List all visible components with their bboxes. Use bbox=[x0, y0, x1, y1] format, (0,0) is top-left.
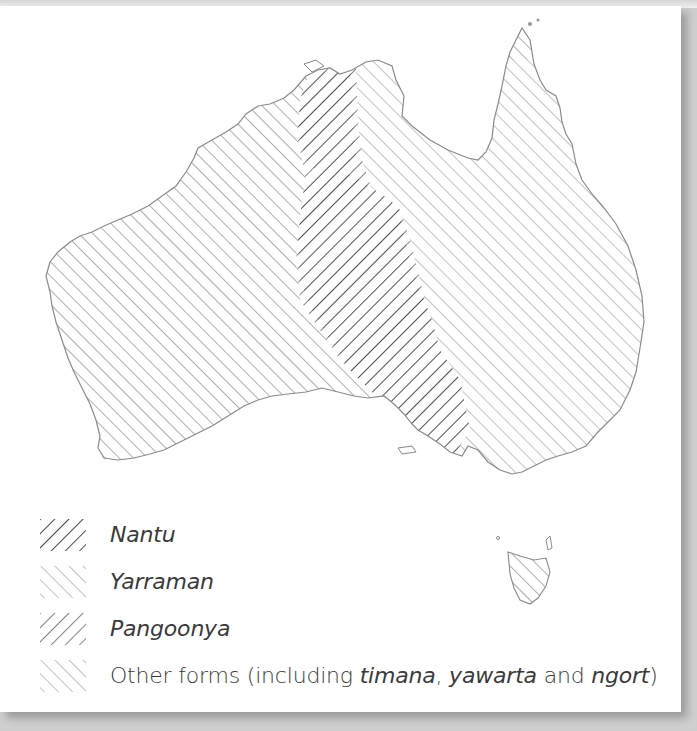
other-hatch-icon bbox=[40, 660, 86, 692]
legend-term: ngort bbox=[591, 663, 649, 688]
legend-item-other: Other forms (including timana, yawarta a… bbox=[40, 652, 658, 699]
map-card: Nantu Yarraman Pangoonya Other forms (in… bbox=[0, 6, 681, 712]
legend-text: , bbox=[436, 663, 450, 688]
legend-text: Other forms (including bbox=[110, 663, 360, 688]
kangaroo-island bbox=[398, 446, 416, 454]
legend-text: ) bbox=[649, 663, 657, 688]
legend-item-nantu: Nantu bbox=[40, 511, 658, 558]
nantu-hatch-icon bbox=[40, 519, 86, 551]
yarraman-hatch-icon bbox=[40, 566, 86, 598]
legend-label: Yarraman bbox=[110, 569, 214, 594]
legend-term: timana bbox=[360, 663, 436, 688]
pangoonya-hatch-icon bbox=[40, 613, 86, 645]
legend-label: Other forms (including timana, yawarta a… bbox=[110, 663, 658, 688]
legend: Nantu Yarraman Pangoonya Other forms (in… bbox=[40, 511, 658, 699]
legend-item-yarraman: Yarraman bbox=[40, 558, 658, 605]
legend-text: and bbox=[537, 663, 591, 688]
legend-item-pangoonya: Pangoonya bbox=[40, 605, 658, 652]
legend-label: Pangoonya bbox=[110, 616, 230, 641]
region-nantu bbox=[298, 70, 356, 175]
legend-label: Nantu bbox=[110, 522, 175, 547]
legend-term: yawarta bbox=[449, 663, 537, 688]
island bbox=[528, 22, 532, 26]
island bbox=[537, 19, 540, 22]
